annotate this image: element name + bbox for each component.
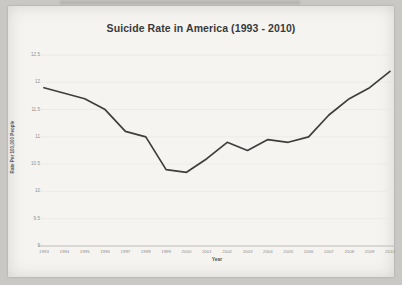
x-tick-label: 2002 <box>218 249 236 254</box>
x-tick-label: 2004 <box>259 249 277 254</box>
x-tick-label: 2000 <box>177 249 195 254</box>
x-tick-label: 2005 <box>279 249 297 254</box>
gridlines <box>40 55 394 219</box>
y-tick-label: 9.5 <box>20 216 40 222</box>
y-tick-label: 10.5 <box>20 161 40 167</box>
x-tick-label: 2008 <box>340 249 358 254</box>
x-tick-label: 2003 <box>239 249 257 254</box>
x-tick-label: 1995 <box>76 249 94 254</box>
scan-artifact-smudge <box>60 1 300 4</box>
x-tick-label: 2007 <box>320 249 338 254</box>
x-tick-label: 2001 <box>198 249 216 254</box>
y-tick-label: 12 <box>20 79 40 85</box>
line-chart <box>8 6 394 277</box>
x-tick-label: 1999 <box>157 249 175 254</box>
x-tick-label: 1996 <box>96 249 114 254</box>
data-line <box>44 71 390 172</box>
y-tick-label: 10 <box>20 188 40 194</box>
x-tick-label: 2009 <box>361 249 379 254</box>
y-tick-label: 11 <box>20 134 40 140</box>
x-tick-label: 1997 <box>116 249 134 254</box>
y-axis-title: Rate Per 100,000 People <box>9 116 17 178</box>
x-tick-label: 1994 <box>55 249 73 254</box>
y-tick-label: 11.5 <box>20 107 40 113</box>
chart-paper: Suicide Rate in America (1993 - 2010) 12… <box>8 6 394 277</box>
x-tick-label: 2010 <box>381 249 399 254</box>
x-tick-label: 2006 <box>300 249 318 254</box>
y-tick-label: 12.5 <box>20 52 40 58</box>
x-tick-label: 1993 <box>35 249 53 254</box>
x-axis-title: Year <box>8 256 402 262</box>
x-tick-label: 1998 <box>137 249 155 254</box>
